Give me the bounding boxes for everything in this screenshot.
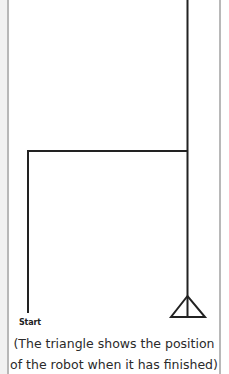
caption-line-2: of the robot when it has finished) — [9, 354, 219, 374]
diagram-frame: Start (The triangle shows the position o… — [0, 0, 229, 374]
caption-line-1: (The triangle shows the position — [9, 333, 219, 354]
caption: (The triangle shows the position of the … — [9, 333, 219, 374]
start-label: Start — [19, 318, 41, 327]
